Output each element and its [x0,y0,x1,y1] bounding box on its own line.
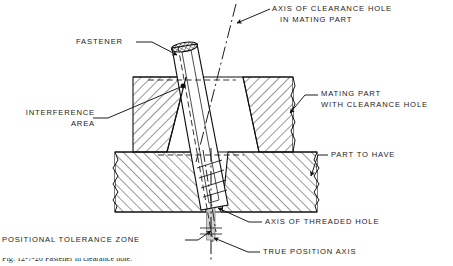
leader-true-position-axis [214,238,260,252]
label-axis-clearance-hole: AXIS OF CLEARANCE HOLE IN MATING PART [272,4,392,25]
figure-caption-text: Fig. 12-7-26 Fastener in clearance hole. [2,258,132,263]
leader-fastener [136,42,177,55]
label-part-to-have: PART TO HAVE [331,150,395,161]
leader-axis-clearance-hole [237,9,270,23]
label-positional-tolerance-zone: POSITIONAL TOLERANCE ZONE [2,235,140,246]
label-fastener: FASTENER [76,37,123,48]
label-axis-clearance-hole-line2: IN MATING PART [272,15,392,26]
engineering-drawing [0,0,453,266]
label-mating-part-line1: MATING PART [321,89,428,100]
label-true-position-axis: TRUE POSITION AXIS [263,247,356,258]
label-axis-threaded-hole: AXIS OF THREADED HOLE [265,217,379,228]
figure-caption-clipped: Fig. 12-7-26 Fastener in clearance hole. [0,258,453,266]
label-interference-area: INTERFERENCE AREA [0,108,95,129]
label-axis-clearance-hole-line1: AXIS OF CLEARANCE HOLE [272,4,392,15]
label-mating-part: MATING PART WITH CLEARANCE HOLE [321,89,428,110]
label-interference-area-line2: AREA [0,119,95,130]
label-interference-area-line1: INTERFERENCE [0,108,95,119]
label-mating-part-line2: WITH CLEARANCE HOLE [321,100,428,111]
figure-canvas: AXIS OF CLEARANCE HOLE IN MATING PART FA… [0,0,453,266]
